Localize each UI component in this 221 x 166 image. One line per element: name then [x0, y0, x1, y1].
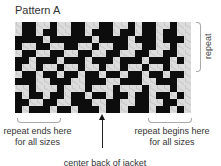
- stitch-cell: [92, 43, 99, 50]
- stitch-cell: [57, 36, 64, 43]
- repeat-bracket-vertical: [196, 22, 201, 72]
- stitch-cell: [142, 106, 149, 113]
- stitch-cell: [113, 29, 120, 36]
- stitch-cell: [170, 99, 177, 106]
- stitch-cell: [22, 106, 29, 113]
- stitch-cell: [135, 85, 142, 92]
- stitch-cell: [113, 92, 120, 99]
- stitch-cell: [92, 36, 99, 43]
- stitch-cell: [71, 22, 78, 29]
- repeat-ends-label: repeat ends here for all sizes: [0, 126, 75, 148]
- stitch-cell: [163, 36, 170, 43]
- stitch-cell: [92, 50, 99, 57]
- stitch-cell: [71, 43, 78, 50]
- stitch-cell: [29, 64, 36, 71]
- stitch-cell: [156, 92, 163, 99]
- stitch-cell: [113, 99, 120, 106]
- stitch-cell: [99, 50, 106, 57]
- stitch-cell: [57, 78, 64, 85]
- stitch-cell: [50, 99, 57, 106]
- stitch-cell: [50, 57, 57, 64]
- stitch-cell: [50, 71, 57, 78]
- stitch-cell: [106, 99, 113, 106]
- stitch-cell: [92, 78, 99, 85]
- stitch-cell: [71, 36, 78, 43]
- stitch-cell: [106, 85, 113, 92]
- stitch-cell: [184, 36, 191, 43]
- stitch-cell: [71, 99, 78, 106]
- stitch-cell: [78, 78, 85, 85]
- stitch-cell: [128, 92, 135, 99]
- stitch-cell: [29, 92, 36, 99]
- stitch-cell: [120, 99, 127, 106]
- stitch-cell: [22, 57, 29, 64]
- stitch-cell: [36, 92, 43, 99]
- stitch-cell: [120, 78, 127, 85]
- stitch-cell: [85, 22, 92, 29]
- stitch-cell: [22, 22, 29, 29]
- stitch-cell: [128, 85, 135, 92]
- stitch-cell: [43, 85, 50, 92]
- stitch-cell: [99, 22, 106, 29]
- stitch-cell: [29, 106, 36, 113]
- stitch-cell: [149, 99, 156, 106]
- stitch-cell: [149, 78, 156, 85]
- stitch-cell: [71, 50, 78, 57]
- stitch-cell: [135, 43, 142, 50]
- stitch-cell: [120, 57, 127, 64]
- stitch-cell: [92, 85, 99, 92]
- stitch-cell: [106, 22, 113, 29]
- repeat-label-vertical: repeat: [203, 22, 217, 70]
- stitch-cell: [43, 71, 50, 78]
- stitch-cell: [99, 92, 106, 99]
- stitch-cell: [36, 99, 43, 106]
- stitch-cell: [15, 50, 22, 57]
- stitch-cell: [113, 106, 120, 113]
- stitch-cell: [106, 43, 113, 50]
- stitch-cell: [15, 78, 22, 85]
- stitch-cell: [29, 71, 36, 78]
- stitch-cell: [78, 71, 85, 78]
- stitch-cell: [64, 43, 71, 50]
- stitch-cell: [170, 92, 177, 99]
- stitch-cell: [85, 92, 92, 99]
- stitch-cell: [43, 43, 50, 50]
- stitch-cell: [184, 92, 191, 99]
- stitch-cell: [15, 64, 22, 71]
- stitch-cell: [128, 57, 135, 64]
- stitch-cell: [78, 106, 85, 113]
- stitch-cell: [177, 43, 184, 50]
- stitch-cell: [170, 43, 177, 50]
- stitch-cell: [177, 92, 184, 99]
- stitch-cell: [128, 64, 135, 71]
- stitch-cell: [99, 36, 106, 43]
- stitch-cell: [184, 85, 191, 92]
- stitch-cell: [163, 57, 170, 64]
- stitch-cell: [142, 22, 149, 29]
- repeat-begins-label: repeat begins here for all sizes: [128, 126, 216, 148]
- stitch-cell: [36, 50, 43, 57]
- stitch-cell: [184, 78, 191, 85]
- stitch-cell: [163, 22, 170, 29]
- stitch-cell: [36, 64, 43, 71]
- stitch-cell: [22, 50, 29, 57]
- stitch-cell: [43, 106, 50, 113]
- stitch-cell: [57, 50, 64, 57]
- stitch-cell: [106, 78, 113, 85]
- stitch-cell: [15, 57, 22, 64]
- stitch-cell: [99, 64, 106, 71]
- stitch-cell: [113, 85, 120, 92]
- stitch-cell: [43, 29, 50, 36]
- stitch-cell: [50, 85, 57, 92]
- stitch-cell: [135, 106, 142, 113]
- stitch-cell: [71, 57, 78, 64]
- repeat-end-bracket: [17, 118, 61, 123]
- stitch-cell: [71, 78, 78, 85]
- stitch-cell: [22, 78, 29, 85]
- stitch-cell: [156, 57, 163, 64]
- stitch-cell: [92, 57, 99, 64]
- stitch-cell: [57, 29, 64, 36]
- stitch-cell: [36, 22, 43, 29]
- stitch-cell: [177, 64, 184, 71]
- stitch-cell: [15, 92, 22, 99]
